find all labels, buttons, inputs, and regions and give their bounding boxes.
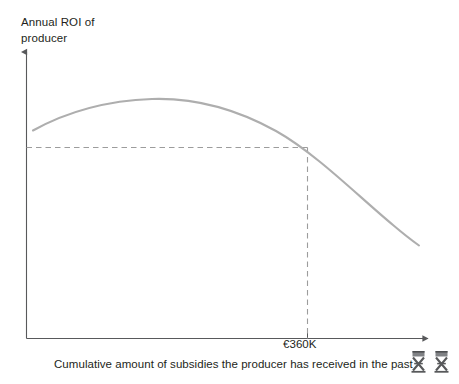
x-tick-label-360k: €360K [283, 338, 317, 350]
footer-icon-group [409, 349, 453, 375]
y-axis-title-line-2: producer [21, 32, 67, 44]
roi-curve [33, 99, 419, 246]
y-axis-title-line-1: Annual ROI of [21, 16, 95, 28]
chart-canvas: Annual ROI ofproducer €360K Cumulative a… [0, 0, 459, 384]
figure-icon-2 [432, 350, 451, 375]
y-axis-title: Annual ROI ofproducer [21, 14, 95, 46]
chart-plot-area [0, 0, 459, 384]
x-axis-title: Cumulative amount of subsidies the produ… [54, 358, 413, 370]
figure-icon-1 [409, 350, 428, 375]
